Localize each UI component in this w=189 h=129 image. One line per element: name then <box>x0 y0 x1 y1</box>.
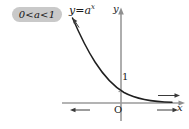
curve-equation-label: y=ax <box>69 5 95 16</box>
curve-equation-exponent: x <box>91 3 95 11</box>
graph-canvas <box>0 0 189 129</box>
x-negative-direction-arrow <box>70 108 90 113</box>
x-negative-arrow-head <box>70 108 76 113</box>
exponential-curve <box>73 18 173 102</box>
asymptote-arrow-head <box>175 93 181 98</box>
exponential-graph-figure: 0<a<1 <box>0 0 189 129</box>
y-intercept-label: 1 <box>122 72 128 82</box>
curve-equation-base: y=a <box>69 4 91 17</box>
asymptote-arrow <box>158 93 180 98</box>
x-axis <box>62 100 185 105</box>
curve-path <box>73 18 173 102</box>
y-axis-arrowhead <box>118 8 124 15</box>
x-positive-direction-arrow <box>157 108 178 113</box>
origin-label: O <box>114 105 122 115</box>
x-axis-label: x <box>177 103 183 113</box>
y-axis-label: y <box>113 4 119 14</box>
